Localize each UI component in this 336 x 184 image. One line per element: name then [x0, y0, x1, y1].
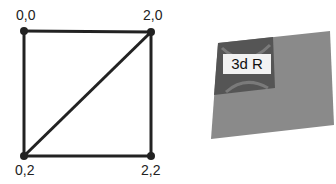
- edge-top: [24, 31, 151, 32]
- vertex-0-2: [20, 152, 28, 160]
- texture-text: 3d R: [223, 54, 271, 74]
- diagram-canvas: [0, 0, 336, 184]
- vertex-label: 2,0: [143, 8, 162, 22]
- vertex-label: 0,2: [15, 163, 34, 177]
- vertex-label: 2,2: [141, 163, 160, 177]
- textured-quad: [211, 31, 334, 139]
- vertex-2-2: [147, 152, 155, 160]
- vertex-label: 0,0: [16, 8, 35, 22]
- vertex-0-0: [20, 27, 28, 35]
- edge-diagonal: [24, 32, 151, 156]
- vertex-2-0: [147, 28, 155, 36]
- unit-square-mesh: [24, 31, 151, 156]
